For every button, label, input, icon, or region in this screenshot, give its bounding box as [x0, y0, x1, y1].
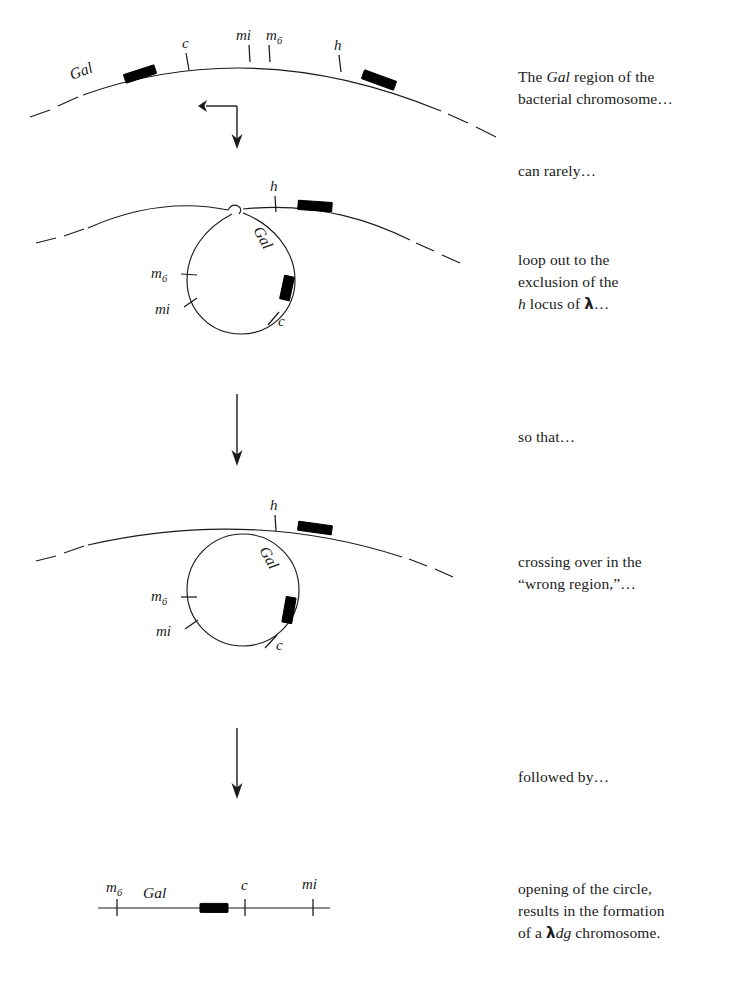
caption-5-line-1: crossing over in the [518, 551, 733, 573]
label-gal-1: Gal [67, 59, 95, 83]
tick-mi-3 [185, 620, 198, 629]
label-c-4: c [241, 877, 248, 893]
caption-3: loop out to the exclusion of the h locus… [518, 249, 733, 315]
caption-2: can rarely… [518, 160, 733, 182]
arc2-left-dash [36, 229, 84, 243]
caption-7-line-3: of a λdg chromosome. [518, 922, 733, 944]
caption-4-line-1: so that… [518, 426, 733, 448]
panel-1-bacterial-chromosome: Gal c mi m 6 h [30, 27, 496, 137]
caption-6-line-1: followed by… [518, 766, 733, 788]
label-c-2: c [278, 313, 285, 329]
chromosome-arc-3 [88, 529, 402, 557]
caption-3-line-1: loop out to the [518, 249, 733, 271]
panel-4-lambda-dg-chromosome: m 6 Gal c mi [98, 876, 330, 916]
label-m6-sub-2: 6 [162, 273, 168, 284]
caption-1-line-1: The Gal region of the [518, 66, 733, 88]
label-gal-2: Gal [250, 223, 276, 252]
arrow-1-render [232, 106, 243, 149]
label-gal-4: Gal [143, 884, 166, 901]
caption-4: so that… [518, 426, 733, 448]
label-gal-3: Gal [256, 543, 282, 572]
chromosome-arc-2-left [88, 206, 228, 228]
lambda-glyph-1: λ [584, 295, 594, 313]
panel-2-loop-out: h Gal m 6 mi c [36, 178, 460, 334]
diagram-svg: Gal c mi m 6 h [0, 0, 739, 989]
label-m6-1: m [266, 27, 277, 43]
label-m6-2: m [151, 265, 162, 281]
caption-3-italic-h: h [518, 295, 526, 312]
caption-1: The Gal region of the bacterial chromoso… [518, 66, 733, 110]
panel-3-excised-circle: h Gal m 6 mi c [36, 497, 453, 653]
prophage-block-right [361, 70, 396, 90]
excised-circle [187, 534, 299, 646]
caption-2-line-1: can rarely… [518, 160, 733, 182]
caption-5: crossing over in the “wrong region,”… [518, 551, 733, 595]
caption-7: opening of the circle, results in the fo… [518, 878, 733, 944]
label-mi-2: mi [155, 301, 170, 317]
label-m6-sub-1: 6 [277, 35, 283, 46]
prophage-block-arc-3 [298, 521, 333, 535]
arc3-right-dash [409, 559, 453, 577]
caption-3-line-3: h locus of λ… [518, 293, 733, 315]
tick-c-1 [186, 53, 189, 70]
tick-h-2 [275, 196, 276, 212]
caption-1-italic-gal: Gal [546, 68, 570, 85]
arc3-left-dash [36, 546, 84, 561]
tick-m6-2 [181, 274, 197, 275]
tick-m6-1 [269, 45, 270, 62]
chromosome-arc-2-right [243, 207, 410, 240]
arc2-right-dash [416, 243, 460, 263]
caption-3-line-2: exclusion of the [518, 271, 733, 293]
figure-root: Gal c mi m 6 h [0, 0, 739, 989]
chromosome-arc-1 [83, 68, 441, 111]
label-h-1: h [334, 37, 342, 53]
caption-7-italic-dg: dg [556, 924, 572, 941]
label-m6-sub-3: 6 [162, 596, 168, 607]
tick-h-1 [339, 55, 341, 72]
prophage-block-circle-3 [282, 596, 296, 623]
arc-right-dash [448, 114, 496, 137]
prophage-block-left [123, 65, 156, 83]
loop-junction-cusp [228, 205, 241, 214]
label-m6-sub-4: 6 [117, 887, 123, 898]
label-c-3: c [276, 637, 283, 653]
tick-mi-2 [184, 298, 197, 307]
label-h-2: h [270, 178, 278, 194]
tick-c-2 [268, 312, 279, 325]
lambda-glyph-2: λ [546, 924, 556, 942]
caption-5-line-2: “wrong region,”… [518, 573, 733, 595]
tick-mi-1 [249, 45, 250, 62]
prophage-block-arc-2 [298, 200, 333, 212]
label-mi-4: mi [302, 876, 317, 892]
label-h-3: h [270, 497, 278, 513]
tick-h-3 [275, 515, 276, 531]
loop-out-circle [187, 213, 295, 334]
caption-6: followed by… [518, 766, 733, 788]
caption-7-line-1: opening of the circle, [518, 878, 733, 900]
arrow-3 [232, 728, 243, 799]
caption-7-line-2: results in the formation [518, 900, 733, 922]
label-c-1: c [182, 35, 189, 51]
tick-c-3 [265, 635, 277, 648]
label-mi-1: mi [236, 27, 251, 43]
prophage-block-linear [200, 903, 228, 912]
caption-1-line-2: bacterial chromosome… [518, 88, 733, 110]
label-mi-3: mi [156, 623, 171, 639]
label-m6-4: m [106, 879, 117, 895]
prophage-block-loop-2 [280, 275, 295, 301]
label-m6-3: m [151, 588, 162, 604]
arrow-2 [232, 394, 243, 466]
arc-left-dash [30, 97, 78, 117]
